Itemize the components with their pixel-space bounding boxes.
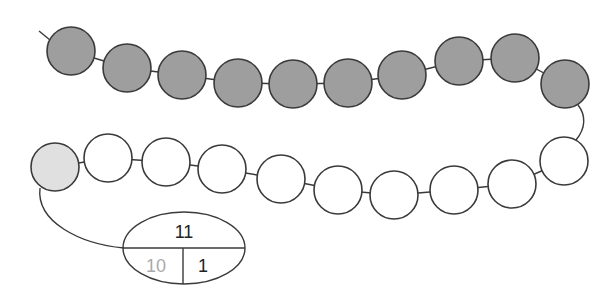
white-bead xyxy=(198,145,246,193)
dark-beads-group xyxy=(47,27,589,108)
white-bead xyxy=(257,155,305,203)
dark-bead xyxy=(378,51,426,99)
number-bond-part-right: 1 xyxy=(198,256,208,276)
dark-bead xyxy=(214,59,262,107)
white-bead xyxy=(488,160,536,208)
highlight-bead xyxy=(31,143,79,191)
white-bead xyxy=(84,134,132,182)
string-tail xyxy=(39,31,50,40)
white-bead xyxy=(142,138,190,186)
white-bead xyxy=(540,137,588,185)
white-beads-group xyxy=(84,134,588,219)
number-bond-whole: 11 xyxy=(175,222,194,242)
white-bead xyxy=(430,166,478,214)
string-turn xyxy=(576,105,584,140)
bead-string-diagram: 11 10 1 xyxy=(0,0,616,299)
highlight-bead-group xyxy=(31,143,79,191)
dark-bead xyxy=(158,51,206,99)
dark-bead xyxy=(435,37,483,85)
number-bond-part-left: 10 xyxy=(146,256,166,276)
dark-bead xyxy=(491,34,539,82)
white-bead xyxy=(370,171,418,219)
dark-bead xyxy=(269,60,317,108)
number-bond: 11 10 1 xyxy=(123,212,245,284)
dark-bead xyxy=(541,60,589,108)
dark-bead xyxy=(103,44,151,92)
string-to-label xyxy=(40,188,124,248)
dark-bead xyxy=(47,27,95,75)
white-bead xyxy=(314,166,362,214)
dark-bead xyxy=(324,59,372,107)
